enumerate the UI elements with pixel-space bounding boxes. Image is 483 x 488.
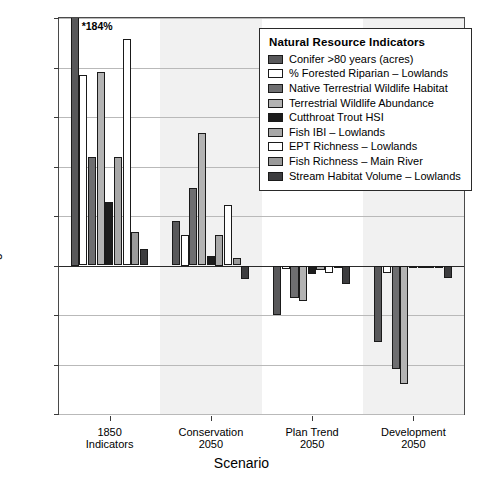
- legend-swatch-icon: [268, 142, 283, 151]
- bar: [316, 266, 324, 271]
- legend-item: Native Terrestrial Wildlife Habitat: [268, 81, 464, 96]
- y-tick-mark: [54, 216, 59, 217]
- bar: [105, 202, 113, 265]
- bar: [282, 266, 290, 270]
- bar: [444, 266, 452, 278]
- y-tick-mark: [54, 315, 59, 316]
- legend-swatch-icon: [268, 84, 283, 93]
- bar: [409, 266, 417, 268]
- bar: [123, 39, 131, 265]
- legend-item-label: Native Terrestrial Wildlife Habitat: [289, 83, 448, 94]
- legend-item-label: Cutthroat Trout HSI: [289, 112, 384, 123]
- x-tick-label-line: Development: [353, 426, 473, 438]
- chart-legend: Natural Resource Indicators Conifer >80 …: [259, 28, 472, 191]
- bar: [241, 266, 249, 280]
- legend-item: Conifer >80 years (acres): [268, 52, 464, 67]
- bar: [207, 256, 215, 266]
- y-tick-mark: [54, 68, 59, 69]
- y-axis-label: Percent Change Relative to 1990: [0, 148, 2, 340]
- x-tick-mark: [110, 416, 111, 421]
- bar: [198, 133, 206, 265]
- bar: [131, 232, 139, 265]
- x-tick-mark: [413, 416, 414, 421]
- bar: [334, 266, 342, 268]
- bar: [181, 235, 189, 266]
- legend-item: EPT Richness – Lowlands: [268, 140, 464, 155]
- legend-item-label: Fish IBI – Lowlands: [289, 127, 385, 138]
- legend-item: Stream Habitat Volume – Lowlands: [268, 169, 464, 184]
- legend-item: Fish Richness – Main River: [268, 154, 464, 169]
- bar: [97, 72, 105, 265]
- legend-swatch-icon: [268, 128, 283, 137]
- bar: [435, 266, 443, 268]
- legend-item-label: Stream Habitat Volume – Lowlands: [289, 171, 461, 182]
- legend-swatch-icon: [268, 113, 283, 122]
- legend-swatch-icon: [268, 55, 283, 64]
- bar: [79, 75, 87, 266]
- y-tick-mark: [54, 117, 59, 118]
- bar: [233, 258, 241, 265]
- x-tick-mark: [312, 416, 313, 421]
- bar: [325, 266, 333, 273]
- legend-item-label: Fish Richness – Main River: [289, 156, 423, 167]
- legend-item: % Forested Riparian – Lowlands: [268, 67, 464, 82]
- legend-item-label: Conifer >80 years (acres): [289, 54, 413, 65]
- bar: [374, 266, 382, 343]
- x-tick-label: Development2050: [353, 426, 473, 450]
- chart-container: 100806040200-20-40-60*184%1850Indicators…: [0, 0, 483, 488]
- bar: [426, 266, 434, 268]
- bar: [172, 221, 180, 266]
- y-tick-mark: [54, 365, 59, 366]
- legend-item-label: EPT Richness – Lowlands: [289, 141, 417, 152]
- bar: [392, 266, 400, 370]
- gridline: [59, 414, 464, 415]
- legend-swatch-icon: [268, 69, 283, 78]
- legend-swatch-icon: [268, 99, 283, 108]
- legend-swatch-icon: [268, 172, 283, 181]
- y-tick-mark: [54, 266, 59, 267]
- legend-swatch-icon: [268, 157, 283, 166]
- bar: [418, 266, 426, 268]
- bar-value-annotation: *184%: [82, 20, 113, 32]
- x-tick-mark: [211, 416, 212, 421]
- legend-item: Cutthroat Trout HSI: [268, 110, 464, 125]
- bar: [308, 266, 316, 275]
- bar: [215, 235, 223, 266]
- x-axis-label: Scenario: [0, 455, 483, 471]
- legend-items: Conifer >80 years (acres)% Forested Ripa…: [268, 52, 464, 183]
- bar: [290, 266, 298, 298]
- x-tick-label-line: 2050: [353, 438, 473, 450]
- gridline: [59, 18, 464, 19]
- y-tick-mark: [54, 18, 59, 19]
- bar: [189, 188, 197, 266]
- legend-item-label: Terrestrial Wildlife Abundance: [289, 98, 434, 109]
- bar: [71, 18, 79, 266]
- legend-title: Natural Resource Indicators: [269, 36, 464, 48]
- bar: [114, 157, 122, 266]
- bar: [383, 266, 391, 273]
- y-tick-mark: [54, 167, 59, 168]
- legend-item: Terrestrial Wildlife Abundance: [268, 96, 464, 111]
- bar: [299, 266, 307, 302]
- legend-item-label: % Forested Riparian – Lowlands: [289, 68, 448, 79]
- bar: [400, 266, 408, 385]
- bar: [140, 249, 148, 265]
- bar: [224, 205, 232, 266]
- y-tick-mark: [54, 414, 59, 415]
- legend-item: Fish IBI – Lowlands: [268, 125, 464, 140]
- bar: [88, 157, 96, 266]
- bar: [342, 266, 350, 285]
- bar: [273, 266, 281, 316]
